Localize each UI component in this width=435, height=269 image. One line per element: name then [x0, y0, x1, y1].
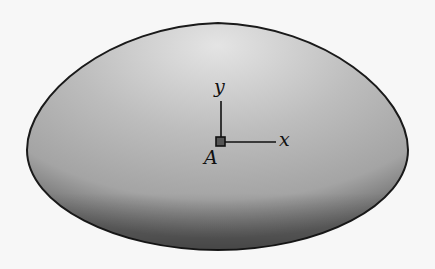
- x-axis-label: x: [279, 130, 290, 149]
- point-a-marker: [216, 137, 225, 146]
- dome-shell: [0, 0, 435, 269]
- y-axis-label: y: [214, 77, 225, 96]
- figure: y x A: [0, 0, 435, 269]
- point-a-label: A: [204, 148, 218, 167]
